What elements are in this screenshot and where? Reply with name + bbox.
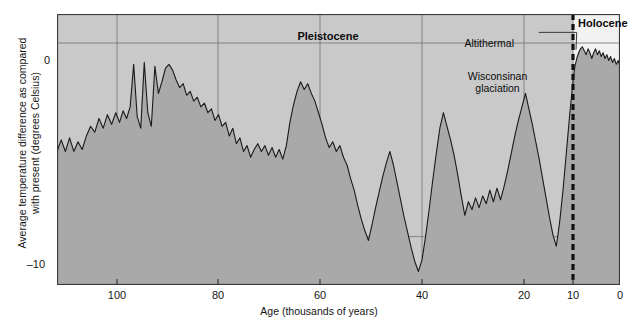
x-tick-80: 80	[198, 289, 238, 301]
plot-area	[57, 14, 620, 285]
y-axis-label-line2: with present (degrees Celsius)	[29, 72, 41, 214]
x-tick-0: 0	[600, 289, 638, 301]
figure-title	[0, 0, 638, 9]
x-tick-20: 20	[504, 289, 544, 301]
x-tick-100: 100	[97, 289, 137, 301]
annotation-wisconsinan-line2: glaciation	[475, 82, 519, 94]
y-axis-label-line1: Average temperature difference as compar…	[16, 38, 28, 249]
x-tick-40: 40	[402, 289, 442, 301]
x-axis-label: Age (thousands of years)	[0, 305, 638, 317]
annotation-altithermal: Altithermal	[404, 37, 514, 49]
x-tick-60: 60	[300, 289, 340, 301]
annotation-holocene: Holocene	[578, 17, 628, 29]
temperature-history-chart: Average temperature difference as compar…	[0, 0, 638, 321]
y-tick-0: 0	[16, 54, 50, 66]
annotation-wisconsinan-line1: Wisconsinan	[468, 70, 528, 82]
annotation-wisconsinan-glaciation: Wisconsinan glaciation	[445, 70, 550, 94]
y-tick-m10: –10	[11, 258, 45, 270]
x-tick-10: 10	[553, 289, 593, 301]
annotation-pleistocene: Pleistocene	[268, 30, 388, 42]
chart-svg	[57, 14, 620, 285]
